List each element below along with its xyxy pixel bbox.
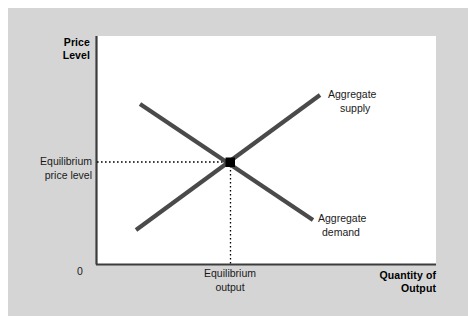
y-axis-title-line2: Level: [63, 49, 90, 61]
aggregate-demand-label: Aggregate demand: [318, 212, 418, 239]
x-axis-title-line2: Output: [401, 282, 436, 294]
y-axis-title: Price Level: [30, 36, 90, 62]
x-axis-title: Quantity of Output: [306, 269, 436, 295]
equilibrium-output-label-line1: Equilibrium: [204, 267, 256, 279]
equilibrium-point-marker: [226, 158, 236, 168]
origin-label: 0: [70, 265, 90, 277]
equilibrium-output-label-line2: output: [215, 281, 244, 293]
equilibrium-price-level-label-line2: price level: [45, 169, 92, 181]
equilibrium-price-level-label: Equilibrium price level: [6, 155, 92, 182]
equilibrium-price-level-label-line1: Equilibrium: [40, 155, 92, 167]
aggregate-demand-label-line2: demand: [318, 226, 418, 240]
y-axis-title-line1: Price: [64, 36, 90, 48]
x-axis-title-line1: Quantity of: [379, 269, 436, 281]
aggregate-supply-label: Aggregate supply: [328, 88, 428, 115]
figure-root: Price Level Quantity of Output 0 Equilib…: [0, 0, 468, 316]
equilibrium-output-label: Equilibrium output: [175, 267, 285, 294]
aggregate-demand-label-line1: Aggregate: [318, 212, 366, 224]
aggregate-supply-label-line1: Aggregate: [328, 88, 376, 100]
aggregate-supply-label-line2: supply: [328, 102, 428, 116]
